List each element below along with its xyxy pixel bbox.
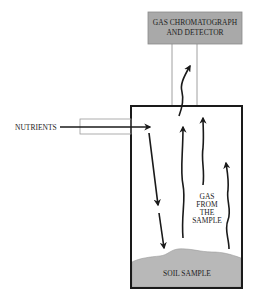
gas-arrow-3 [226,163,229,249]
gas-arrow-to-gc [179,66,190,116]
soil-sample [132,249,241,287]
gc-label-line1: GAS CHROMATOGRAPH [153,18,238,27]
gc-label-line2: AND DETECTOR [166,28,223,37]
nutrients-label: NUTRIENTS [15,123,57,132]
gas-arrow-2 [202,118,203,185]
soil-sample-label: SOIL SAMPLE [163,269,211,278]
soil-gas-diagram: GAS CHROMATOGRAPH AND DETECTOR SOIL SAMP… [0,0,258,302]
down-arrow-1 [149,133,158,205]
gas-arrow-1 [182,127,184,238]
gas-label-line4: SAMPLE [192,216,222,225]
down-arrow-2 [159,213,164,248]
